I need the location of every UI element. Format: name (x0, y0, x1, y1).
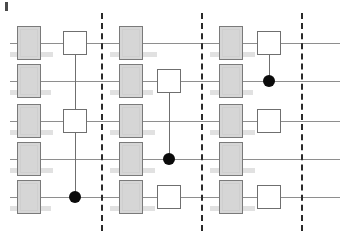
gate-box-c1-r1[interactable] (119, 64, 143, 98)
gate-label-smudge-28 (210, 206, 219, 211)
control-dot-mid[interactable] (163, 153, 175, 165)
gate-label-smudge-14 (110, 130, 119, 135)
gate-box-c2-r1[interactable] (219, 64, 243, 98)
square-gate-r0-left[interactable] (63, 31, 87, 55)
control-link-mid (169, 93, 170, 159)
gate-label-smudge-29 (241, 206, 255, 211)
gate-box-c0-r0[interactable] (17, 26, 41, 60)
page-corner-mark (5, 2, 8, 11)
barrier-1 (101, 13, 103, 231)
square-gate-r2-right[interactable] (257, 109, 281, 133)
gate-box-c2-r3[interactable] (219, 142, 243, 176)
gate-label-smudge-18 (110, 206, 119, 211)
gate-box-c0-r1[interactable] (17, 64, 41, 98)
gate-label-smudge-16 (110, 168, 119, 173)
gate-box-c0-r4[interactable] (17, 180, 41, 214)
square-gate-r4-right[interactable] (257, 185, 281, 209)
qubit-wire-2 (10, 121, 340, 122)
gate-box-c1-r3[interactable] (119, 142, 143, 176)
gate-label-smudge-12 (110, 90, 119, 95)
barrier-3 (301, 13, 303, 231)
gate-label-smudge-17 (141, 168, 155, 173)
gate-label-smudge-25 (241, 130, 255, 135)
qubit-wire-0 (10, 43, 340, 44)
gate-box-c2-r4[interactable] (219, 180, 243, 214)
gate-box-c1-r4[interactable] (119, 180, 143, 214)
gate-label-smudge-22 (210, 90, 219, 95)
gate-label-smudge-20 (210, 52, 219, 57)
control-dot-right[interactable] (263, 75, 275, 87)
gate-box-c1-r0[interactable] (119, 26, 143, 60)
barrier-2 (201, 13, 203, 231)
gate-label-smudge-1 (39, 52, 53, 57)
gate-box-c1-r2[interactable] (119, 104, 143, 138)
gate-label-smudge-24 (210, 130, 219, 135)
gate-label-smudge-15 (141, 130, 155, 135)
gate-label-smudge-21 (241, 52, 255, 57)
gate-box-c0-r2[interactable] (17, 104, 41, 138)
gate-box-c2-r0[interactable] (219, 26, 243, 60)
square-gate-r2-left[interactable] (63, 109, 87, 133)
control-dot-left[interactable] (69, 191, 81, 203)
square-gate-r1-mid[interactable] (157, 69, 181, 93)
gate-box-c0-r3[interactable] (17, 142, 41, 176)
gate-label-smudge-27 (241, 168, 255, 173)
square-gate-r0-right[interactable] (257, 31, 281, 55)
gate-label-smudge-10 (110, 52, 119, 57)
gate-label-smudge-5 (39, 130, 53, 135)
gate-label-smudge-19 (141, 206, 155, 211)
gate-label-smudge-7 (39, 168, 53, 173)
gate-box-c2-r2[interactable] (219, 104, 243, 138)
circuit-diagram-canvas (0, 0, 347, 243)
square-gate-r4-mid[interactable] (157, 185, 181, 209)
qubit-wire-3 (10, 159, 340, 160)
gate-label-smudge-26 (210, 168, 219, 173)
gate-label-smudge-11 (141, 52, 157, 57)
